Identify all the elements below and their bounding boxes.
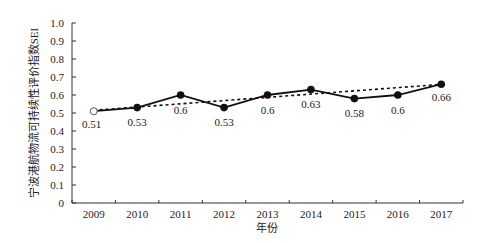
x-axis-title: 年份 <box>256 221 278 234</box>
data-label: 0.53 <box>128 116 148 128</box>
data-label: 0.6 <box>391 104 405 116</box>
y-tick-label: 0.2 <box>50 161 64 173</box>
x-tick-label: 2012 <box>213 208 235 220</box>
x-tick-label: 2010 <box>126 208 149 220</box>
data-label: 0.58 <box>345 107 365 119</box>
y-tick-label: 0.5 <box>50 107 64 119</box>
y-tick-label: 0.7 <box>50 71 64 83</box>
data-label: 0.51 <box>82 118 101 130</box>
y-axis-title: 宁波港航物流可持续性评价指数SEI <box>27 27 40 198</box>
x-axis: 200920102011201220132014201520162017 <box>72 200 463 220</box>
data-point <box>220 104 228 112</box>
data-point <box>133 104 141 112</box>
data-point-open <box>90 108 97 115</box>
data-point <box>264 91 272 99</box>
y-tick-label: 0.6 <box>50 89 64 101</box>
x-tick-label: 2015 <box>343 208 366 220</box>
data-label: 0.53 <box>214 116 234 128</box>
data-label: 0.66 <box>432 91 452 103</box>
data-point <box>351 95 359 103</box>
x-tick-label: 2011 <box>170 208 192 220</box>
data-point <box>437 80 445 88</box>
x-tick-label: 2014 <box>300 208 323 220</box>
y-axis: 00.10.20.30.40.50.60.70.80.91.0 <box>50 17 76 209</box>
y-tick-label: 0.3 <box>50 143 64 155</box>
data-point <box>394 91 402 99</box>
y-tick-label: 0.4 <box>50 125 64 137</box>
x-tick-label: 2009 <box>83 208 106 220</box>
x-tick-label: 2017 <box>430 208 453 220</box>
y-tick-label: 1.0 <box>50 17 64 29</box>
y-tick-label: 0.8 <box>50 53 64 65</box>
data-label: 0.6 <box>261 104 275 116</box>
y-tick-label: 0 <box>59 197 65 209</box>
data-point <box>177 91 185 99</box>
sei-line-chart: 00.10.20.30.40.50.60.70.80.91.0 20092010… <box>0 0 487 243</box>
data-point <box>307 86 315 94</box>
data-label: 0.6 <box>174 104 188 116</box>
data-label: 0.63 <box>301 98 321 110</box>
y-tick-label: 0.1 <box>50 179 64 191</box>
x-tick-label: 2016 <box>387 208 410 220</box>
y-tick-label: 0.9 <box>50 35 64 47</box>
x-tick-label: 2013 <box>257 208 280 220</box>
